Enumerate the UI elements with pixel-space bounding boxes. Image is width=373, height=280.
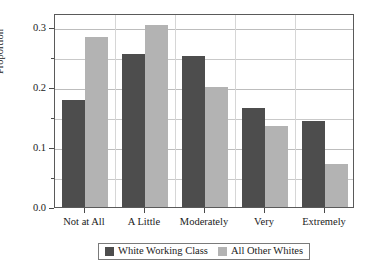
legend-label: White Working Class (118, 246, 208, 257)
gridline-vertical (295, 15, 296, 207)
x-axis-tick-label: Extremely (302, 216, 346, 227)
legend-entry: All Other Whites (218, 246, 303, 257)
gridline-vertical (235, 15, 236, 207)
gridline-horizontal (55, 29, 353, 30)
legend-swatch (105, 247, 114, 256)
y-axis-tick-label: 0.2 (33, 83, 46, 94)
x-axis-tick-mark (324, 208, 325, 213)
bar (242, 108, 265, 207)
y-axis-tick-label: 0.3 (33, 23, 46, 34)
y-axis-tick-mark (49, 208, 54, 209)
gridline-vertical (175, 15, 176, 207)
bar (122, 54, 145, 207)
x-axis-tick-label: A Little (128, 216, 160, 227)
bar (62, 100, 85, 207)
chart-legend: White Working ClassAll Other Whites (98, 243, 310, 260)
legend-label: All Other Whites (231, 246, 303, 257)
bar (182, 56, 205, 207)
bar (302, 121, 325, 207)
bar (325, 164, 348, 207)
x-axis-tick-label: Not at All (63, 216, 104, 227)
bar (85, 37, 108, 207)
bar (265, 126, 288, 207)
bar (145, 25, 168, 207)
x-axis-tick-mark (204, 208, 205, 213)
x-axis-tick-label: Very (254, 216, 274, 227)
legend-swatch (218, 247, 227, 256)
legend-entry: White Working Class (105, 246, 208, 257)
x-axis-tick-mark (264, 208, 265, 213)
x-axis-tick-label: Moderately (180, 216, 228, 227)
y-axis-tick-label: 0.1 (33, 143, 46, 154)
plot-area (54, 14, 354, 208)
y-axis-label: Proportion (0, 29, 5, 74)
x-axis-tick-mark (144, 208, 145, 213)
chart-figure: Proportion 0.00.10.20.3 Not at AllA Litt… (0, 0, 373, 280)
y-axis-tick-label: 0.0 (33, 203, 46, 214)
x-axis-tick-mark (84, 208, 85, 213)
plot-inner (55, 15, 353, 207)
bar (205, 87, 228, 207)
gridline-vertical (115, 15, 116, 207)
